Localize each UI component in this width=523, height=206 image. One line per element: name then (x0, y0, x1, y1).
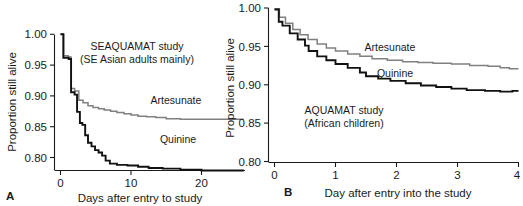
panel-b-letter: B (284, 186, 292, 198)
panel-a-x-ticks (61, 171, 202, 176)
panel-a-artesunate-label: Artesunate (151, 94, 202, 106)
panel-a-annotation-line2: (SE Asian adults mainly) (80, 53, 194, 65)
panel-b-xtick-0: 0 (271, 169, 277, 181)
panel-b-artesunate-curve (275, 9, 519, 69)
panel-a-letter: A (6, 190, 14, 202)
panel-a-ytick-3: 0.95 (25, 59, 47, 71)
panel-a-ytick-4: 1.00 (25, 28, 47, 40)
panel-a-y-ticks (50, 34, 55, 157)
panel-b-ytick-1: 0.85 (239, 117, 261, 129)
panel-a-y-axis-title: Proportion still alive (6, 52, 18, 152)
panel-b-xtick-3: 3 (454, 169, 460, 181)
panel-a-ytick-0: 0.80 (25, 152, 47, 164)
panel-a-annotation-line1: SEAQUAMAT study (91, 40, 185, 52)
panel-b-x-ticks (275, 163, 519, 168)
panel-b-quinine-label: Quinine (377, 67, 413, 79)
panel-b-ytick-4: 1.00 (239, 2, 261, 14)
panel-b-chart: 0.80 0.85 0.90 0.95 1.00 0 1 2 3 4 Propo… (222, 0, 523, 206)
panel-b-artesunate-label: Artesunate (365, 41, 416, 53)
panel-b-xtick-2: 2 (393, 169, 399, 181)
panel-b-y-axis-title: Proportion still alive (224, 38, 236, 138)
panel-a-xtick-2: 20 (195, 177, 208, 189)
figure-survival-curves: 0.80 0.85 0.90 0.95 1.00 0 10 20 Proport… (0, 0, 523, 206)
panel-b-xtick-4: 4 (514, 169, 521, 181)
panel-b-ytick-2: 0.90 (239, 79, 261, 91)
panel-b-ytick-0: 0.80 (239, 156, 261, 168)
panel-a-xtick-1: 10 (125, 177, 138, 189)
panel-a-xtick-0: 0 (57, 177, 63, 189)
panel-a-quinine-label: Quinine (160, 133, 196, 145)
panel-a-ytick-2: 0.90 (25, 90, 47, 102)
panel-b-ytick-3: 0.95 (239, 41, 261, 53)
panel-b-y-ticks (264, 8, 269, 162)
panel-b-annotation-line2: (African children) (304, 117, 383, 129)
panel-a-ytick-1: 0.85 (25, 121, 47, 133)
panel-b: 0.80 0.85 0.90 0.95 1.00 0 1 2 3 4 Propo… (222, 0, 523, 206)
panel-b-annotation-line1: AQUAMAT study (305, 104, 385, 116)
panel-b-xtick-1: 1 (332, 169, 338, 181)
panel-b-x-axis-title: Day after entry into the study (324, 187, 471, 199)
panel-a-x-axis-title: Days after entry to study (78, 192, 203, 204)
